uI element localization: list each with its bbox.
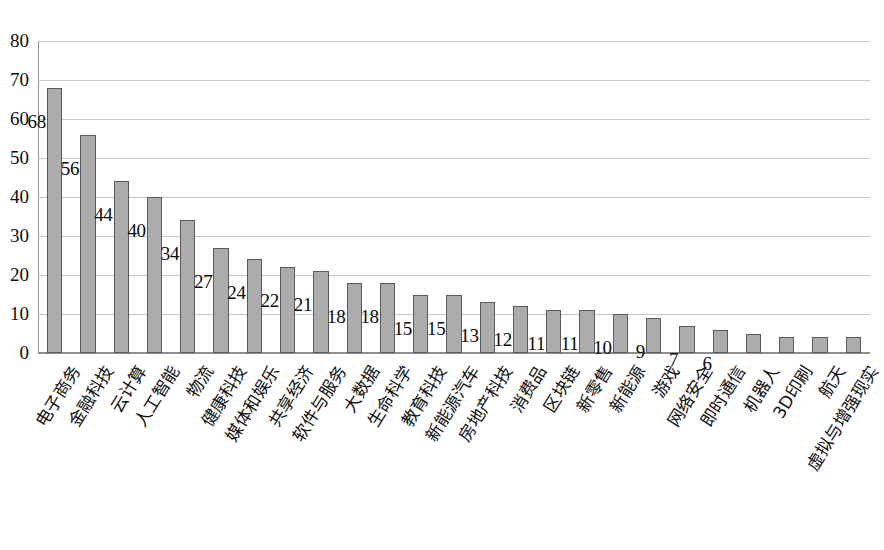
x-axis-labels: 电子商务金融科技云计算人工智能物流健康科技媒体和娱乐共享经济软件与服务大数据生命… [0, 0, 874, 550]
bar-chart: 01020304050607080 6856444034272422211818… [0, 0, 874, 550]
